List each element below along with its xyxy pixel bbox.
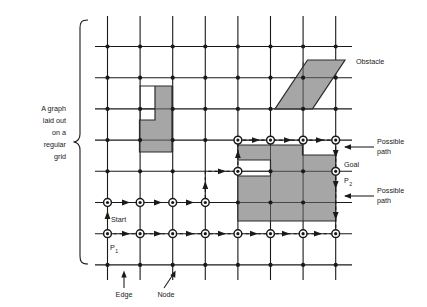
node-dot xyxy=(203,138,207,142)
node-dot xyxy=(203,263,207,267)
marked-node xyxy=(169,230,177,238)
marked-node xyxy=(234,167,242,175)
node-dot xyxy=(138,44,142,48)
marked-node xyxy=(299,136,307,144)
p1-label-subscript: 1 xyxy=(115,248,118,254)
node-dot xyxy=(236,44,240,48)
node-dot xyxy=(301,107,305,111)
node-label: Node xyxy=(157,290,174,299)
left-caption-line: on a xyxy=(52,128,66,137)
node-dot xyxy=(171,44,175,48)
node-dot xyxy=(301,169,305,173)
arrowhead-left-icon xyxy=(344,144,351,149)
node-dot xyxy=(268,76,272,80)
right-callouts: Possible path Goal P 2 Possible path xyxy=(344,137,404,205)
arrowhead-right-icon xyxy=(314,231,322,237)
l-shaped-obstacle xyxy=(140,86,173,152)
brace-path xyxy=(74,20,89,264)
node-dot xyxy=(138,107,142,111)
marked-node xyxy=(267,230,275,238)
arrowhead-right-icon xyxy=(154,200,162,206)
marked-node xyxy=(201,230,209,238)
marked-node xyxy=(234,136,242,144)
node-dot xyxy=(236,263,240,267)
node-dot xyxy=(301,263,305,267)
possible-path-top-label: path xyxy=(377,147,391,156)
arrowhead-right-icon xyxy=(186,231,194,237)
node-dot xyxy=(105,44,109,48)
obstacle-label: Obstacle xyxy=(356,57,384,66)
p2-label: P xyxy=(344,176,349,185)
node-dot xyxy=(171,76,175,80)
node-dot xyxy=(236,200,240,204)
node-dot xyxy=(301,76,305,80)
p1-label-group: P 1 xyxy=(110,243,118,254)
marked-node xyxy=(267,136,275,144)
marked-node xyxy=(234,230,242,238)
arrowhead-right-icon xyxy=(218,231,226,237)
node-dot xyxy=(105,107,109,111)
left-caption-line: regular xyxy=(44,140,67,149)
marked-node xyxy=(201,199,209,207)
marked-node xyxy=(299,230,307,238)
node-dot xyxy=(203,44,207,48)
left-caption: A graph laid out on a regular grid xyxy=(41,104,66,161)
arrowhead-right-icon xyxy=(122,200,130,206)
node-dot xyxy=(138,138,142,142)
marked-node-goal xyxy=(332,136,340,144)
diagram-canvas: A graph laid out on a regular grid Obsta… xyxy=(0,0,427,307)
node-dot xyxy=(334,263,338,267)
arrowhead-right-icon xyxy=(282,231,290,237)
arrowhead-right-icon xyxy=(154,231,162,237)
node-dot xyxy=(203,107,207,111)
left-caption-line: laid out xyxy=(43,116,66,125)
grid-lines xyxy=(95,16,352,280)
arrowhead-right-icon xyxy=(218,168,226,174)
node-dot xyxy=(138,263,142,267)
marked-node xyxy=(136,199,144,207)
arrowhead-up-icon xyxy=(105,211,111,219)
node-dot xyxy=(236,107,240,111)
left-caption-line: grid xyxy=(54,152,66,161)
node-dot xyxy=(138,169,142,173)
graph-on-regular-grid-figure: A graph laid out on a regular grid Obsta… xyxy=(0,0,427,307)
node-dot xyxy=(171,107,175,111)
arrowhead-right-icon xyxy=(252,137,260,143)
node-dot xyxy=(105,263,109,267)
start-label: Start xyxy=(111,215,126,224)
marked-node xyxy=(169,199,177,207)
possible-path-top-label: Possible xyxy=(377,137,404,146)
node-dot xyxy=(334,76,338,80)
node-dot xyxy=(268,169,272,173)
node-dot xyxy=(301,200,305,204)
arrowhead-right-icon xyxy=(284,137,292,143)
node-dot xyxy=(334,107,338,111)
bottom-callouts: Edge Node xyxy=(116,271,176,300)
marked-node-p2 xyxy=(332,167,340,175)
arrowhead-up-icon xyxy=(202,181,208,189)
block-obstacle xyxy=(238,145,336,221)
node-dot xyxy=(301,44,305,48)
arrowhead-right-icon xyxy=(186,200,194,206)
marked-node xyxy=(104,199,112,207)
marked-node xyxy=(136,230,144,238)
arrowhead-right-icon xyxy=(316,137,324,143)
p2-label-subscript: 2 xyxy=(349,181,352,187)
marked-node xyxy=(104,230,112,238)
possible-path-bottom-label: path xyxy=(377,196,391,205)
node-dot xyxy=(171,138,175,142)
node-dot xyxy=(268,107,272,111)
node-dot xyxy=(268,200,272,204)
arrowhead-up-icon xyxy=(121,271,126,278)
node-dot xyxy=(236,76,240,80)
arrowhead-right-icon xyxy=(122,231,130,237)
p1-label: P xyxy=(110,243,115,252)
arrowhead-right-icon xyxy=(250,231,258,237)
goal-label: Goal xyxy=(344,160,360,169)
left-brace xyxy=(74,20,89,264)
marked-node xyxy=(332,230,340,238)
node-dot xyxy=(171,169,175,173)
left-caption-line: A graph xyxy=(41,104,66,113)
node-dot xyxy=(105,169,109,173)
node-dot xyxy=(203,76,207,80)
